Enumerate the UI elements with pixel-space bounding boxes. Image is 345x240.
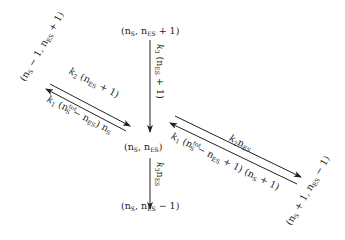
state-top: (nS, nES + 1) bbox=[121, 26, 179, 36]
state-center: (nS, nES) bbox=[124, 142, 162, 152]
state-bottom: (nS, nES − 1) bbox=[121, 201, 179, 211]
rate-center-to-bottom: k3nES bbox=[156, 162, 166, 186]
rate-top-to-center: k3 (nES + 1) bbox=[156, 44, 166, 99]
